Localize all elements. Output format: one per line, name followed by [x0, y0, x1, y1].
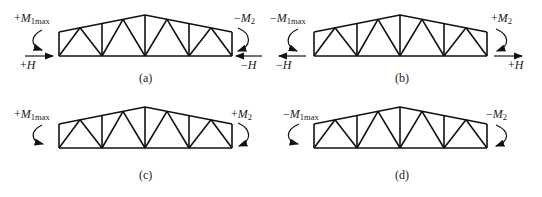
truss-c — [33, 107, 249, 148]
moment-arrow-left-b — [288, 29, 298, 51]
moment-arrow-right-b — [496, 29, 507, 51]
truss-a — [25, 15, 262, 56]
moment-arrow-left-d — [288, 124, 299, 144]
label-left-moment-c: +M1max — [14, 108, 50, 123]
caption-c: (c) — [139, 169, 152, 181]
truss-b — [279, 15, 522, 56]
label-left-force-a: +H — [20, 59, 35, 71]
moment-arrow-left-a — [33, 30, 42, 50]
label-right-moment-b: +M2 — [491, 12, 512, 27]
label-right-force-a: −H — [241, 59, 256, 71]
label-right-force-b: +H — [508, 59, 523, 71]
label-left-force-b: −H — [276, 59, 291, 71]
caption-b: (b) — [395, 72, 409, 84]
moment-arrow-right-c — [238, 123, 249, 146]
label-right-moment-d: −M2 — [486, 108, 507, 123]
caption-d: (d) — [395, 169, 409, 181]
label-left-moment-b: −M1max — [270, 12, 306, 27]
label-right-moment-c: +M2 — [231, 108, 252, 123]
caption-a: (a) — [139, 72, 152, 84]
label-left-moment-a: +M1max — [14, 12, 50, 27]
moment-arrow-right-a — [238, 28, 249, 51]
label-right-moment-a: −M2 — [234, 12, 255, 27]
truss-diagram-canvas — [0, 0, 542, 197]
moment-arrow-left-c — [33, 125, 43, 144]
label-left-moment-d: −M1max — [283, 108, 319, 123]
moment-arrow-right-d — [496, 125, 507, 146]
truss-d — [288, 107, 506, 148]
